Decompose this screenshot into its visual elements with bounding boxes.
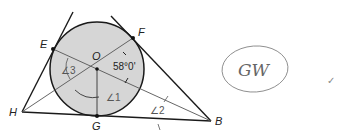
angle-measure: 58°0': [113, 61, 136, 72]
point-e: [51, 47, 55, 51]
label-b: B: [215, 115, 222, 127]
check-mark: ✓: [327, 75, 335, 86]
angle-2-tick-bottom: [158, 124, 160, 130]
point-g: [95, 114, 99, 118]
geometry-diagram: O E F G H B 58°0' ∠1 ∠2 ∠3 GW ✓: [0, 0, 349, 139]
label-e: E: [40, 38, 48, 50]
point-o: [95, 67, 99, 71]
angle-1-label: ∠1: [106, 92, 121, 103]
label-f: F: [138, 26, 146, 38]
point-f: [131, 36, 135, 40]
angle-3-label: ∠3: [61, 65, 76, 76]
label-h: H: [9, 106, 17, 118]
side-hb: [22, 112, 211, 121]
label-g: G: [92, 120, 101, 132]
label-o: O: [92, 50, 101, 62]
handwritten-initials: GW: [238, 60, 271, 80]
angle-2-label: ∠2: [150, 105, 165, 116]
